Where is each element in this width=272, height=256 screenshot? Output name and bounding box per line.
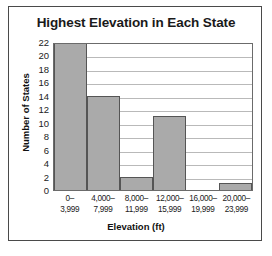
y-tick-label: 18 xyxy=(27,65,49,75)
bar[interactable] xyxy=(219,183,252,190)
x-tick-label: 12,000–15,999 xyxy=(153,194,186,215)
bar-slot xyxy=(153,44,186,190)
bar[interactable] xyxy=(87,96,120,190)
y-tick-label: 2 xyxy=(27,173,49,183)
x-tick-label: 16,000–19,999 xyxy=(186,194,219,215)
bar-slot xyxy=(87,44,120,190)
x-tick-label: 0–3,999 xyxy=(53,194,86,215)
y-tick-label: 0 xyxy=(27,186,49,196)
x-tick-label-line: 8,000– xyxy=(120,194,153,205)
y-tick-label: 4 xyxy=(27,159,49,169)
y-tick-label: 22 xyxy=(27,38,49,48)
x-tick-label-line: 23,999 xyxy=(220,205,253,216)
y-tick-label: 8 xyxy=(27,132,49,142)
y-tick-label: 14 xyxy=(27,92,49,102)
chart-title: Highest Elevation in Each State xyxy=(9,15,263,30)
x-tick-label-line: 11,999 xyxy=(120,205,153,216)
bar[interactable] xyxy=(120,177,153,190)
x-tick-label: 8,000–11,999 xyxy=(120,194,153,215)
bar-slot xyxy=(219,44,252,190)
x-tick-label-line: 19,999 xyxy=(186,205,219,216)
y-tick-label: 6 xyxy=(27,146,49,156)
x-tick-label-line: 4,000– xyxy=(86,194,119,205)
bar-slot xyxy=(120,44,153,190)
y-tick-label: 20 xyxy=(27,52,49,62)
y-tick-label: 12 xyxy=(27,106,49,116)
y-tick-label: 16 xyxy=(27,79,49,89)
bar-slot xyxy=(186,44,219,190)
plot-area xyxy=(53,43,253,191)
x-tick-label-line: 7,999 xyxy=(86,205,119,216)
x-tick-label: 4,000–7,999 xyxy=(86,194,119,215)
x-tick-label-line: 12,000– xyxy=(153,194,186,205)
bar[interactable] xyxy=(153,116,186,190)
x-tick-label-line: 15,999 xyxy=(153,205,186,216)
x-tick-label-line: 20,000– xyxy=(220,194,253,205)
x-axis-title: Elevation (ft) xyxy=(9,221,263,232)
x-axis-tick-labels: 0–3,9994,000–7,9998,000–11,99912,000–15,… xyxy=(53,194,253,215)
y-axis-tick-labels: 0246810121416182022 xyxy=(27,43,49,191)
bar[interactable] xyxy=(54,43,87,190)
x-tick-label: 20,000–23,999 xyxy=(220,194,253,215)
y-tick-label: 10 xyxy=(27,119,49,129)
chart-figure: Highest Elevation in Each State Number o… xyxy=(8,6,262,241)
x-tick-label-line: 3,999 xyxy=(53,205,86,216)
x-tick-label-line: 0– xyxy=(53,194,86,205)
x-tick-label-line: 16,000– xyxy=(186,194,219,205)
bar-series xyxy=(54,44,252,190)
bar-slot xyxy=(54,44,87,190)
